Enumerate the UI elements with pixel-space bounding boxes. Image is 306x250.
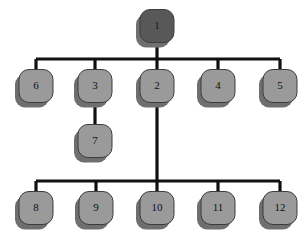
node-label: 10 — [152, 201, 164, 213]
tree-node-5[interactable]: 5 — [259, 70, 297, 108]
tree-node-11[interactable]: 11 — [197, 192, 235, 230]
node-label: 7 — [92, 134, 98, 146]
tree-diagram: 163245789101112 — [0, 0, 306, 250]
tree-canvas: 163245789101112 — [0, 0, 306, 250]
node-label: 3 — [92, 79, 98, 91]
tree-node-9[interactable]: 9 — [75, 192, 113, 230]
node-label: 5 — [277, 79, 283, 91]
node-label: 2 — [154, 79, 160, 91]
tree-node-3[interactable]: 3 — [74, 70, 112, 108]
tree-node-4[interactable]: 4 — [197, 70, 235, 108]
tree-node-7[interactable]: 7 — [74, 125, 112, 163]
node-label: 4 — [215, 79, 221, 91]
node-label: 6 — [33, 79, 39, 91]
tree-node-10[interactable]: 10 — [136, 192, 174, 230]
connector-layer — [36, 41, 280, 194]
node-label: 1 — [154, 19, 160, 31]
node-label: 9 — [93, 201, 99, 213]
tree-node-8[interactable]: 8 — [15, 192, 53, 230]
tree-node-12[interactable]: 12 — [259, 192, 297, 230]
node-label: 8 — [33, 201, 39, 213]
tree-node-1[interactable]: 1 — [136, 10, 174, 48]
tree-node-2[interactable]: 2 — [136, 70, 174, 108]
node-label: 11 — [213, 201, 224, 213]
tree-node-6[interactable]: 6 — [15, 70, 53, 108]
node-label: 12 — [275, 201, 286, 213]
